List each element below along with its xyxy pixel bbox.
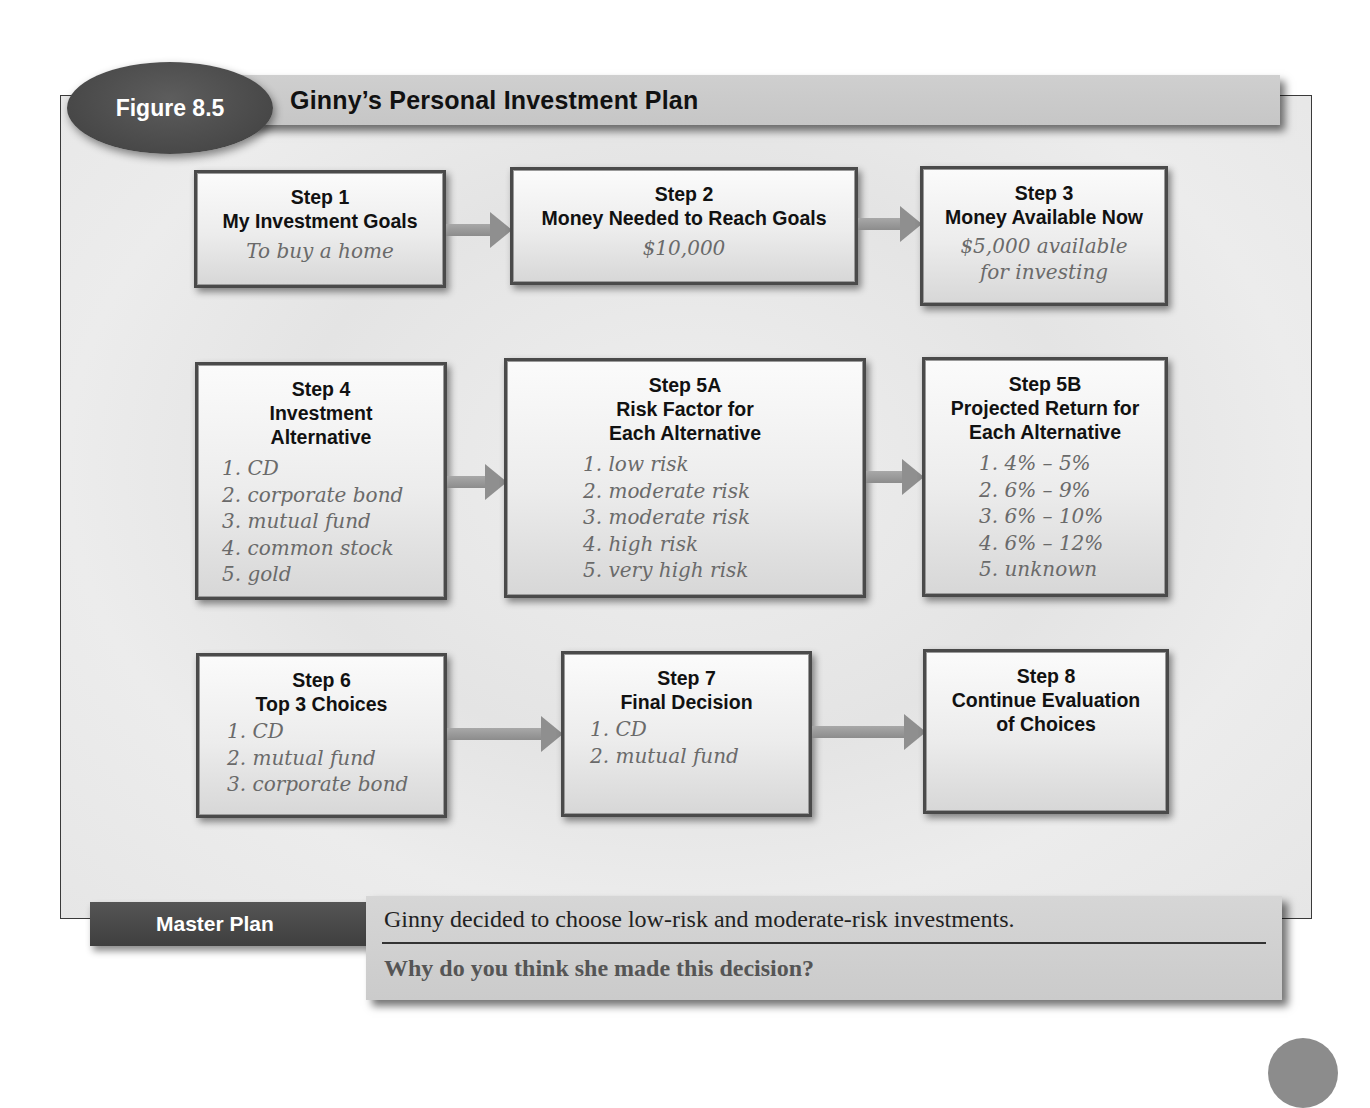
step-4-heading-line1: Investment [198, 401, 444, 425]
step-7-heading: Final Decision [564, 690, 809, 714]
step-5b-box: Step 5B Projected Return for Each Altern… [922, 357, 1168, 597]
step-6-heading: Top 3 Choices [199, 692, 444, 716]
arrow-2-to-3 [858, 212, 922, 236]
step-6-box: Step 6 Top 3 Choices 1. CD 2. mutual fun… [196, 653, 447, 818]
step-5a-label: Step 5A [507, 373, 863, 397]
arrow-shaft [447, 728, 549, 740]
arrow-shaft [812, 726, 912, 738]
list-item: 1. CD [227, 718, 444, 745]
list-item: 4. 6% – 12% [979, 530, 1165, 557]
step-2-box: Step 2 Money Needed to Reach Goals $10,0… [510, 167, 858, 285]
list-item: 5. very high risk [583, 557, 863, 584]
arrow-5a-to-5b [866, 465, 924, 489]
list-item: 2. moderate risk [583, 478, 863, 505]
step-7-list: 1. CD 2. mutual fund [564, 716, 809, 769]
arrow-head-icon [490, 212, 512, 248]
step-2-heading: Money Needed to Reach Goals [513, 206, 855, 230]
step-2-note: $10,000 [513, 235, 855, 261]
list-item: 2. corporate bond [222, 482, 444, 509]
step-4-list: 1. CD 2. corporate bond 3. mutual fund 4… [198, 455, 444, 588]
step-1-heading: My Investment Goals [197, 209, 443, 233]
list-item: 5. unknown [979, 556, 1165, 583]
step-8-heading-line1: Continue Evaluation [926, 688, 1166, 712]
step-6-label: Step 6 [199, 668, 444, 692]
master-plan-label: Master Plan [156, 912, 274, 936]
step-5b-heading-line2: Each Alternative [925, 420, 1165, 444]
list-item: 3. mutual fund [222, 508, 444, 535]
step-4-box: Step 4 Investment Alternative 1. CD 2. c… [195, 362, 447, 600]
step-5b-list: 1. 4% – 5% 2. 6% – 9% 3. 6% – 10% 4. 6% … [925, 450, 1165, 583]
list-item: 3. corporate bond [227, 771, 444, 798]
step-8-heading-line2: of Choices [926, 712, 1166, 736]
step-3-label: Step 3 [923, 181, 1165, 205]
master-plan-tab: Master Plan [90, 902, 375, 946]
arrow-7-to-8 [812, 720, 926, 744]
list-item: 1. low risk [583, 451, 863, 478]
step-3-heading: Money Available Now [923, 205, 1165, 229]
figure-label-badge: Figure 8.5 [67, 62, 273, 154]
list-item: 2. 6% – 9% [979, 477, 1165, 504]
step-8-box: Step 8 Continue Evaluation of Choices [923, 649, 1169, 814]
step-1-box: Step 1 My Investment Goals To buy a home [194, 170, 446, 288]
step-7-label: Step 7 [564, 666, 809, 690]
step-5a-heading-line1: Risk Factor for [507, 397, 863, 421]
figure-label: Figure 8.5 [116, 95, 225, 122]
arrow-6-to-7 [447, 722, 563, 746]
list-item: 1. CD [590, 716, 809, 743]
step-5a-heading-line2: Each Alternative [507, 421, 863, 445]
list-item: 4. common stock [222, 535, 444, 562]
step-5b-label: Step 5B [925, 372, 1165, 396]
arrow-head-icon [541, 716, 563, 752]
master-plan-divider [382, 942, 1266, 944]
master-plan-question: Why do you think she made this decision? [384, 955, 814, 982]
step-2-label: Step 2 [513, 182, 855, 206]
step-6-list: 1. CD 2. mutual fund 3. corporate bond [199, 718, 444, 798]
arrow-4-to-5a [447, 470, 507, 494]
step-5a-list: 1. low risk 2. moderate risk 3. moderate… [507, 451, 863, 584]
list-item: 5. gold [222, 561, 444, 588]
master-plan-statement: Ginny decided to choose low-risk and mod… [384, 906, 1015, 933]
step-4-label: Step 4 [198, 377, 444, 401]
arrow-head-icon [902, 459, 924, 495]
list-item: 1. 4% – 5% [979, 450, 1165, 477]
list-item: 2. mutual fund [590, 743, 809, 770]
list-item: 2. mutual fund [227, 745, 444, 772]
figure-title: Ginny’s Personal Investment Plan [290, 86, 698, 115]
list-item: 3. 6% – 10% [979, 503, 1165, 530]
step-3-note-line2: for investing [923, 259, 1165, 285]
step-3-box: Step 3 Money Available Now $5,000 availa… [920, 166, 1168, 306]
page-marker-circle [1268, 1038, 1338, 1108]
step-7-box: Step 7 Final Decision 1. CD 2. mutual fu… [561, 651, 812, 817]
step-5b-heading-line1: Projected Return for [925, 396, 1165, 420]
step-4-heading-line2: Alternative [198, 425, 444, 449]
step-1-label: Step 1 [197, 185, 443, 209]
step-1-note: To buy a home [197, 238, 443, 264]
arrow-1-to-2 [446, 218, 512, 242]
master-plan-panel: Ginny decided to choose low-risk and mod… [366, 896, 1282, 1000]
arrow-head-icon [900, 206, 922, 242]
list-item: 3. moderate risk [583, 504, 863, 531]
list-item: 1. CD [222, 455, 444, 482]
step-8-label: Step 8 [926, 664, 1166, 688]
step-3-note-line1: $5,000 available [923, 233, 1165, 259]
list-item: 4. high risk [583, 531, 863, 558]
step-5a-box: Step 5A Risk Factor for Each Alternative… [504, 358, 866, 598]
